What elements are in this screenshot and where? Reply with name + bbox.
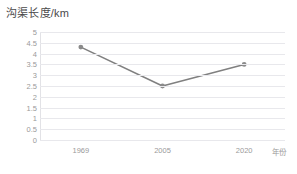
gridline xyxy=(40,64,285,65)
y-axis-tick-label: 1.5 xyxy=(3,103,37,112)
gridline xyxy=(40,108,285,109)
y-axis-tick-labels: 54.543.532.521.510.50 xyxy=(0,0,37,174)
x-axis-tick-label: 2005 xyxy=(154,146,171,155)
y-axis-tick-label: 0.5 xyxy=(3,125,37,134)
gridline xyxy=(40,97,285,98)
x-axis-title: 年份 xyxy=(272,146,286,157)
plot-area xyxy=(40,32,285,140)
gridline xyxy=(40,75,285,76)
gridline xyxy=(40,129,285,130)
x-axis-tick-label: 1969 xyxy=(72,146,89,155)
y-axis-tick-label: 4 xyxy=(3,49,37,58)
y-axis-tick-label: 1 xyxy=(3,114,37,123)
gridline xyxy=(40,43,285,44)
y-axis-tick-label: 3 xyxy=(3,71,37,80)
line-chart: 沟渠长度/km 54.543.532.521.510.50 1969200520… xyxy=(0,0,297,174)
gridline xyxy=(40,54,285,55)
y-axis-tick-label: 0 xyxy=(3,136,37,145)
gridline xyxy=(40,118,285,119)
gridline xyxy=(40,32,285,33)
y-axis-tick-label: 4.5 xyxy=(3,38,37,47)
y-axis-tick-label: 5 xyxy=(3,28,37,37)
gridline xyxy=(40,86,285,87)
y-axis-tick-label: 3.5 xyxy=(3,60,37,69)
data-point-marker[interactable] xyxy=(78,45,83,50)
y-axis-tick-label: 2.5 xyxy=(3,82,37,91)
gridline xyxy=(40,140,285,141)
y-axis-tick-label: 2 xyxy=(3,92,37,101)
x-axis-tick-label: 2020 xyxy=(236,146,253,155)
